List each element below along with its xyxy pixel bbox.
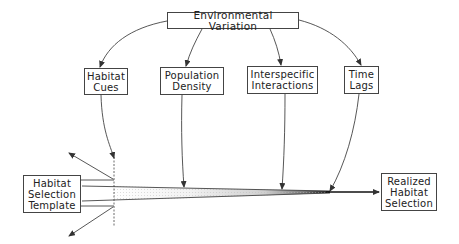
time-lags-box: Time Lags [344,66,379,94]
time-lags-line-2: Lags [349,80,373,91]
time-lags-line-1: Time [349,69,374,80]
template-line-1: Habitat [33,178,71,189]
interspecific-interactions-box: Interspecific Interactions [247,66,318,94]
arrow-time-lags-down [330,94,359,191]
environmental-variation-box: Environmental Variation [167,12,299,29]
interspecific-interactions-line-2: Interactions [252,80,314,91]
habitat-cues-line-2: Cues [93,82,118,93]
arrow-habitat-cues-down [101,95,114,158]
template-line-3: Template [28,200,75,211]
arrow-to-time-lags [299,20,361,65]
population-density-box: Population Density [160,67,224,95]
environmental-variation-label: Environmental Variation [168,10,298,32]
arrow-to-interspecific-interactions [270,29,281,65]
factor-to-funnel-arrows [101,94,359,191]
habitat-selection-template-box: Habitat Selection Template [23,175,81,213]
template-lines [81,180,114,206]
realized-line-2: Habitat [390,187,428,198]
habitat-cues-line-1: Habitat [87,71,125,82]
realized-habitat-selection-box: Realized Habitat Selection [381,173,437,211]
population-density-line-1: Population [165,70,220,81]
interspecific-interactions-line-1: Interspecific [251,69,315,80]
arrow-interspecific-down [282,94,285,189]
arrow-population-density-down [182,95,184,187]
selection-funnel [82,186,379,201]
template-line-2: Selection [28,189,76,200]
arrow-to-population-density [186,29,202,66]
arrow-to-habitat-cues [100,21,167,67]
realized-line-3: Selection [385,198,433,209]
population-density-line-2: Density [172,81,211,92]
habitat-cues-box: Habitat Cues [84,68,128,95]
realized-line-1: Realized [387,176,431,187]
